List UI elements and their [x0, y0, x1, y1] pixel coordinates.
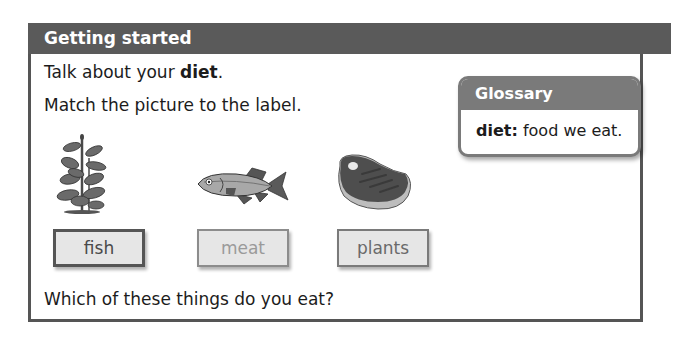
glossary-title: Glossary [461, 79, 638, 110]
panel-title: Getting started [44, 28, 192, 48]
keyword-diet: diet [180, 62, 218, 82]
panel-header: Getting started [28, 23, 671, 54]
meat-steak-icon[interactable] [334, 152, 414, 214]
glossary-term: diet: [476, 121, 518, 140]
instruction-match: Match the picture to the label. [44, 95, 302, 115]
label-plants[interactable]: plants [337, 229, 429, 267]
label-meat[interactable]: meat [197, 229, 289, 267]
instruction-period: . [218, 62, 223, 82]
instruction-text: Talk about your [44, 62, 180, 82]
label-plants-text: plants [357, 238, 409, 258]
label-fish-text: fish [84, 238, 114, 258]
label-fish[interactable]: fish [53, 229, 145, 267]
instruction-talk: Talk about your diet. [44, 62, 223, 82]
fish-icon[interactable] [196, 166, 292, 206]
plant-icon[interactable] [56, 133, 108, 215]
question-text: Which of these things do you eat? [44, 289, 334, 309]
glossary-box: Glossary diet: food we eat. [458, 76, 641, 157]
glossary-definition-text: food we eat. [518, 121, 623, 140]
glossary-definition: diet: food we eat. [461, 110, 638, 140]
label-meat-text: meat [221, 238, 265, 258]
